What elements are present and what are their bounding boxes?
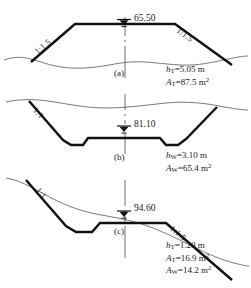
panel-id-c: (c) [114, 226, 124, 237]
cross-section-panel-b: 1:1 81.10 (b) hW=3.10 m AW=65.4 m2 [0, 88, 251, 170]
annotation-c-0: hT=1.20 m [166, 240, 211, 252]
cross-section-panel-a: 1:1.5 1:1.5 65.50 (a) hT=5.05 m AT=87.5 … [0, 0, 251, 88]
panel-id-a: (a) [114, 68, 124, 79]
annotation-a-1-superscript: 2 [206, 76, 209, 83]
annotation-a-0: hT=5.05 m [166, 64, 209, 76]
annotation-c-2-superscript: 2 [208, 264, 211, 271]
ground-line-a [4, 56, 248, 68]
panel-id-b: (b) [114, 152, 125, 163]
water-level-triangle-icon-c [117, 211, 131, 218]
ground-line-b [6, 100, 248, 110]
annotation-b-1-superscript: 2 [208, 162, 211, 169]
annotation-block-c: hT=1.20 m AT=16.9 m2 AW=14.2 m2 [166, 240, 211, 276]
annotation-a-1: AT=87.5 m2 [166, 76, 209, 88]
elevation-label-b: 81.10 [134, 119, 155, 130]
cross-section-panel-c: 1:1 1:1.5 94.60 (c) hT=1.20 m AT=16.9 m2… [0, 170, 251, 288]
annotation-block-a: hT=5.05 m AT=87.5 m2 [166, 64, 209, 88]
annotation-a-1-value: =87.5 m [176, 76, 206, 86]
annotation-c-2-value: =14.2 m [178, 265, 208, 275]
annotation-a-0-value: =5.05 m [175, 64, 205, 74]
annotation-c-2: AW=14.2 m2 [166, 264, 211, 276]
roadway-cross-section-figure: 1:1.5 1:1.5 65.50 (a) hT=5.05 m AT=87.5 … [0, 0, 251, 288]
embankment-template-a [31, 24, 232, 65]
annotation-c-1-value: =16.9 m [176, 252, 206, 262]
annotation-c-0-value: =1.20 m [175, 240, 205, 250]
panel-b-drawing [0, 88, 251, 170]
elevation-label-c: 94.60 [134, 203, 155, 214]
annotation-b-0-value: =3.10 m [177, 150, 207, 160]
water-level-triangle-icon-b [117, 126, 131, 133]
elevation-label-a: 65.50 [134, 13, 155, 24]
annotation-c-1-superscript: 2 [206, 252, 209, 259]
annotation-b-0: hW=3.10 m [166, 150, 211, 162]
annotation-c-1: AT=16.9 m2 [166, 252, 211, 264]
